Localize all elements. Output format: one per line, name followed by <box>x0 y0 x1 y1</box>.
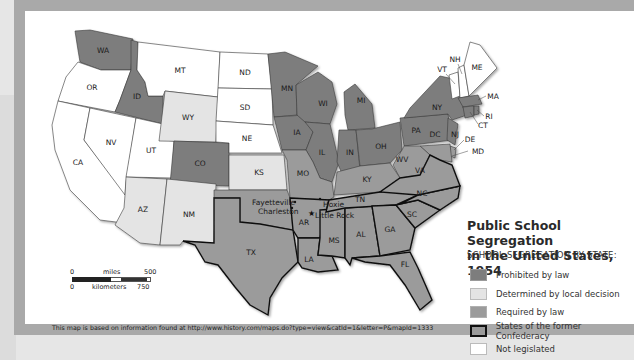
svg-text:IL: IL <box>319 148 326 157</box>
legend: Prohibited by law Determined by local de… <box>470 266 634 359</box>
svg-text:OR: OR <box>86 83 97 92</box>
svg-text:AZ: AZ <box>138 205 148 214</box>
legend-item-prohibited: Prohibited by law <box>470 266 634 285</box>
svg-text:UT: UT <box>146 146 156 155</box>
svg-text:OH: OH <box>375 142 387 151</box>
svg-text:NY: NY <box>432 103 443 112</box>
swatch-required <box>470 306 487 318</box>
svg-text:RI: RI <box>485 112 492 121</box>
state-CT[interactable] <box>463 106 474 118</box>
svg-text:IN: IN <box>346 148 354 157</box>
source-credit: This map is based on information found a… <box>52 324 433 331</box>
svg-text:SC: SC <box>407 210 417 219</box>
state-FL[interactable] <box>352 252 432 310</box>
svg-text:TN: TN <box>354 195 365 204</box>
svg-text:DE: DE <box>465 135 476 144</box>
svg-text:AR: AR <box>299 218 309 227</box>
svg-text:NM: NM <box>183 210 195 219</box>
svg-text:MI: MI <box>357 96 366 105</box>
svg-text:MO: MO <box>297 169 309 178</box>
svg-text:WY: WY <box>182 113 194 122</box>
city-little-rock: Little Rock <box>315 211 355 220</box>
svg-text:ME: ME <box>471 63 482 72</box>
svg-text:MN: MN <box>281 84 293 93</box>
legend-item-not-legislated: Not legislated <box>470 340 634 359</box>
svg-text:CO: CO <box>194 159 205 168</box>
svg-text:SD: SD <box>240 103 251 112</box>
city-hoxie: Hoxie <box>323 200 345 209</box>
svg-text:MD: MD <box>472 147 484 156</box>
svg-text:MS: MS <box>328 236 339 245</box>
city-fayetteville: Fayetteville <box>252 198 295 207</box>
swatch-not-legislated <box>470 343 487 355</box>
state-RI[interactable] <box>474 106 479 115</box>
svg-text:KS: KS <box>254 168 264 177</box>
svg-text:CT: CT <box>478 121 488 130</box>
svg-text:VT: VT <box>437 65 447 74</box>
svg-text:IA: IA <box>293 128 301 137</box>
svg-text:NC: NC <box>417 189 428 198</box>
svg-text:ID: ID <box>133 92 141 101</box>
svg-text:AL: AL <box>356 230 366 239</box>
svg-text:LA: LA <box>304 255 314 264</box>
svg-text:FL: FL <box>401 260 410 269</box>
legend-item-local: Determined by local decision <box>470 285 634 304</box>
svg-text:MA: MA <box>487 92 499 101</box>
svg-text:TX: TX <box>245 248 256 257</box>
svg-text:DC: DC <box>429 130 440 139</box>
svg-text:NE: NE <box>242 134 253 143</box>
svg-text:WI: WI <box>318 99 328 108</box>
legend-heading: SCHOOL SEGREGATION BY STATE: <box>467 250 617 260</box>
svg-text:KY: KY <box>362 175 372 184</box>
legend-item-confederacy: States of the former Confederacy <box>470 322 634 341</box>
svg-text:NJ: NJ <box>451 130 459 139</box>
svg-text:NH: NH <box>449 55 460 64</box>
swatch-prohibited <box>470 269 487 281</box>
state-MI[interactable] <box>344 84 375 130</box>
svg-text:PA: PA <box>411 126 421 135</box>
svg-text:WV: WV <box>396 155 409 164</box>
svg-text:NV: NV <box>106 138 118 147</box>
svg-text:CA: CA <box>73 158 84 167</box>
svg-text:MT: MT <box>174 66 185 75</box>
legend-item-required: Required by law <box>470 303 634 322</box>
swatch-local <box>470 288 487 300</box>
svg-text:ND: ND <box>239 68 251 77</box>
svg-text:GA: GA <box>385 225 397 234</box>
swatch-confederacy <box>470 325 487 337</box>
city-charleston: Charleston <box>258 207 299 216</box>
svg-text:VA: VA <box>415 166 426 175</box>
svg-text:WA: WA <box>97 46 110 55</box>
state-PA[interactable] <box>400 114 452 146</box>
